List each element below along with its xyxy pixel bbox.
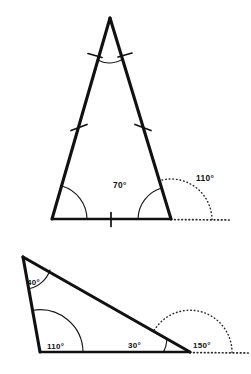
label-angle-110: 110° [47, 342, 64, 351]
triangle-left-side-2 [23, 257, 40, 352]
triangle-left-side [52, 18, 110, 219]
scalene-triangle-figure: 40° 110° 30° 150° [0, 240, 251, 374]
label-angle-30: 30° [128, 341, 141, 350]
triangle-hypotenuse-2 [23, 257, 190, 352]
label-interior-angle-70: 70° [113, 180, 127, 190]
apex-angle-arc [98, 59, 124, 63]
geometry-figure-sheet: 70° 110° 40° 110° 30° 150° [0, 0, 251, 374]
label-angle-40: 40° [27, 278, 40, 287]
interior-angle-arc-right [138, 188, 162, 220]
exterior-ray-dotted-2 [190, 353, 250, 354]
interior-angle-arc-right-2 [163, 339, 167, 353]
label-exterior-angle-110: 110° [196, 173, 214, 183]
label-angle-150: 150° [193, 341, 211, 350]
interior-angle-arc-left [62, 186, 87, 220]
isosceles-triangle-figure: 70° 110° [0, 0, 251, 240]
exterior-ray-dotted [171, 220, 231, 221]
